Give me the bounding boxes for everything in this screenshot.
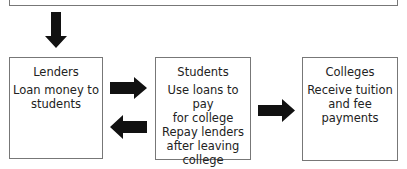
arrow-right-icon (258, 99, 296, 122)
lenders-node: Lenders Loan money to students (9, 57, 103, 159)
students-node: Students Use loans to pay for college Re… (155, 57, 251, 160)
students-desc-line: Repay lenders (156, 125, 250, 139)
students-desc-line: Use loans to pay (156, 83, 250, 111)
colleges-desc-line: and fee (303, 97, 397, 111)
lenders-desc-line: students (10, 97, 102, 111)
colleges-desc-line: payments (303, 111, 397, 125)
arrow-down-icon (44, 12, 68, 49)
students-desc-line: after leaving (156, 139, 250, 153)
colleges-node: Colleges Receive tuition and fee payment… (302, 57, 398, 161)
arrow-left-icon (110, 115, 148, 139)
lenders-title: Lenders (10, 65, 102, 79)
arrow-right-icon (110, 77, 148, 99)
top-box (9, 0, 398, 6)
lenders-desc-line: Loan money to (10, 83, 102, 97)
students-desc-line: college (156, 153, 250, 167)
students-desc-line: for college (156, 111, 250, 125)
colleges-desc-line: Receive tuition (303, 83, 397, 97)
students-title: Students (156, 65, 250, 79)
colleges-title: Colleges (303, 65, 397, 79)
